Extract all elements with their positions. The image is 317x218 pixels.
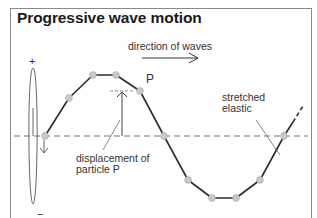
direction-label: direction of waves: [128, 41, 212, 52]
minus-label: −: [37, 209, 43, 218]
wave-continuation: [293, 106, 303, 122]
point-p-label: P: [146, 74, 154, 85]
particle-p: [137, 88, 144, 95]
displacement-label-2: particle P: [76, 164, 120, 175]
plus-label: +: [29, 56, 35, 67]
wave-diagram: [0, 0, 317, 218]
displacement-marker: [103, 91, 134, 150]
stretched-elastic-label-2: elastic: [222, 103, 252, 114]
direction-arrow-icon: [142, 53, 198, 63]
